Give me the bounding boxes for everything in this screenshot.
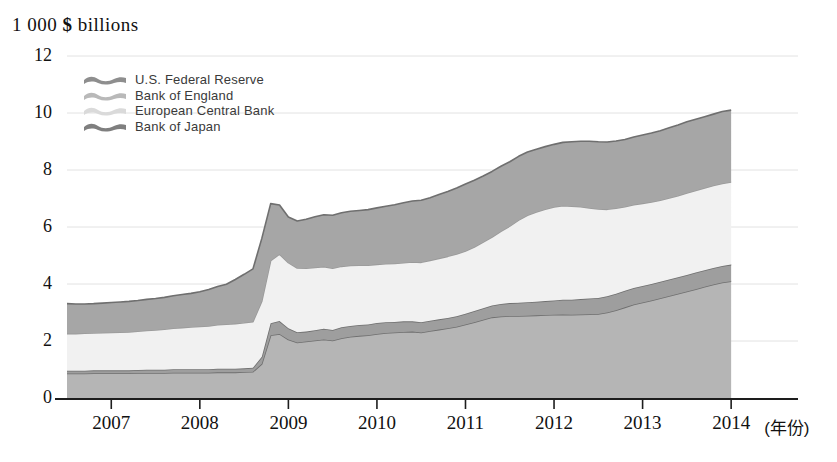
legend-swatch-us-federal-reserve xyxy=(84,74,126,85)
chart-legend: U.S. Federal Reserve Bank of England Eur… xyxy=(84,72,274,134)
legend-item-european-central-bank: European Central Bank xyxy=(84,103,274,119)
x-tick-marks xyxy=(111,399,731,409)
area-series-group xyxy=(67,110,731,398)
x-tick-label-2014: 2014 xyxy=(701,412,761,434)
legend-label-bank-of-japan: Bank of Japan xyxy=(135,119,221,135)
x-tick-label-2012: 2012 xyxy=(524,412,584,434)
legend-item-bank-of-japan: Bank of Japan xyxy=(84,119,274,135)
legend-swatch-bank-of-england xyxy=(84,90,126,101)
legend-label-european-central-bank: European Central Bank xyxy=(135,103,274,119)
legend-label-us-federal-reserve: U.S. Federal Reserve xyxy=(135,72,264,88)
legend-item-us-federal-reserve: U.S. Federal Reserve xyxy=(84,72,274,88)
legend-label-bank-of-england: Bank of England xyxy=(135,88,233,104)
stacked-area-plot xyxy=(0,0,837,462)
x-tick-label-2010: 2010 xyxy=(347,412,407,434)
y-tick-label-12: 12 xyxy=(18,45,52,66)
x-tick-label-2008: 2008 xyxy=(170,412,230,434)
x-tick-label-2007: 2007 xyxy=(81,412,141,434)
chart-root: 1 000 $ billions 121086420 2007200820092… xyxy=(0,0,837,462)
x-axis-unit-label: (年份) xyxy=(764,414,809,439)
y-tick-label-8: 8 xyxy=(18,159,52,180)
legend-swatch-bank-of-japan xyxy=(84,121,126,132)
x-tick-label-2011: 2011 xyxy=(435,412,495,434)
y-tick-label-6: 6 xyxy=(18,216,52,237)
x-tick-label-2009: 2009 xyxy=(258,412,318,434)
legend-item-bank-of-england: Bank of England xyxy=(84,88,274,104)
y-tick-label-10: 10 xyxy=(18,102,52,123)
y-tick-label-2: 2 xyxy=(18,330,52,351)
y-tick-label-4: 4 xyxy=(18,273,52,294)
x-tick-label-2013: 2013 xyxy=(613,412,673,434)
y-tick-label-0: 0 xyxy=(18,387,52,408)
legend-swatch-european-central-bank xyxy=(84,105,126,116)
